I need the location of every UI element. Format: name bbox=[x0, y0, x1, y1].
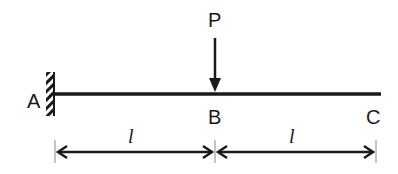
fixed-support-icon bbox=[46, 72, 54, 116]
cantilever-beam-diagram: A P B C l l bbox=[0, 0, 398, 174]
dimension-label-ab: l bbox=[128, 125, 134, 147]
label-c: C bbox=[366, 106, 380, 128]
label-a: A bbox=[27, 90, 41, 112]
label-p: P bbox=[208, 9, 221, 31]
load-arrow-icon bbox=[209, 38, 221, 92]
dimension-lines bbox=[55, 140, 376, 163]
dimension-label-bc: l bbox=[289, 125, 295, 147]
label-b: B bbox=[208, 106, 221, 128]
